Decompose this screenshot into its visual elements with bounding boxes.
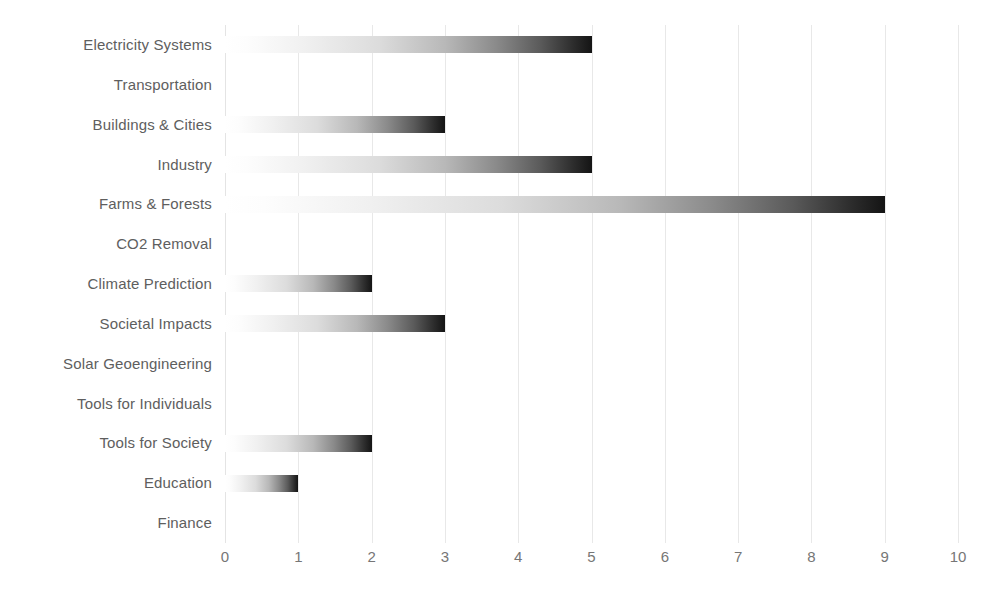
bar-row	[225, 264, 958, 304]
category-label: CO2 Removal	[0, 224, 212, 264]
plot-area	[225, 25, 958, 543]
category-label: Transportation	[0, 65, 212, 105]
bar-row	[225, 423, 958, 463]
bar	[225, 435, 372, 452]
bar	[225, 196, 885, 213]
bar-row	[225, 463, 958, 503]
category-axis: Electricity SystemsTransportationBuildin…	[0, 25, 212, 543]
bar	[225, 275, 372, 292]
bar-row	[225, 344, 958, 384]
bar-row	[225, 184, 958, 224]
category-label: Tools for Individuals	[0, 384, 212, 424]
category-label: Solar Geoengineering	[0, 344, 212, 384]
category-label: Finance	[0, 503, 212, 543]
category-label: Buildings & Cities	[0, 105, 212, 145]
x-tick-label-3: 3	[425, 548, 465, 565]
x-tick-label-10: 10	[938, 548, 978, 565]
x-axis-tick-labels: 012345678910	[225, 548, 958, 578]
bar	[225, 315, 445, 332]
x-tick-label-2: 2	[352, 548, 392, 565]
bar	[225, 156, 592, 173]
x-tick-label-6: 6	[645, 548, 685, 565]
category-label: Education	[0, 463, 212, 503]
x-tick-label-0: 0	[205, 548, 245, 565]
x-tick-label-4: 4	[498, 548, 538, 565]
bar-row	[225, 25, 958, 65]
bar-row	[225, 503, 958, 543]
x-tick-label-8: 8	[791, 548, 831, 565]
bar-chart: Electricity SystemsTransportationBuildin…	[0, 0, 997, 602]
category-label: Tools for Society	[0, 423, 212, 463]
gridline-10	[958, 25, 959, 543]
bar-row	[225, 105, 958, 145]
x-tick-label-1: 1	[278, 548, 318, 565]
category-label: Industry	[0, 145, 212, 185]
category-label: Electricity Systems	[0, 25, 212, 65]
bar-row	[225, 224, 958, 264]
bar-series	[225, 25, 958, 543]
bar	[225, 116, 445, 133]
x-tick-label-9: 9	[865, 548, 905, 565]
x-tick-label-5: 5	[572, 548, 612, 565]
bar-row	[225, 65, 958, 105]
bar	[225, 475, 298, 492]
bar-row	[225, 384, 958, 424]
bar-row	[225, 304, 958, 344]
category-label: Climate Prediction	[0, 264, 212, 304]
category-label: Societal Impacts	[0, 304, 212, 344]
bar	[225, 36, 592, 53]
x-tick-label-7: 7	[718, 548, 758, 565]
category-label: Farms & Forests	[0, 184, 212, 224]
bar-row	[225, 145, 958, 185]
